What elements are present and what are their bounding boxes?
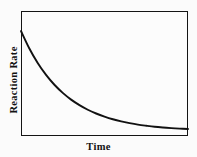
reaction-rate-curve [21, 31, 188, 129]
decay-curve-svg [21, 11, 188, 136]
x-axis-label: Time [0, 141, 197, 152]
reaction-rate-figure: Reaction Rate Time [0, 0, 197, 157]
y-axis-label: Reaction Rate [8, 46, 19, 113]
